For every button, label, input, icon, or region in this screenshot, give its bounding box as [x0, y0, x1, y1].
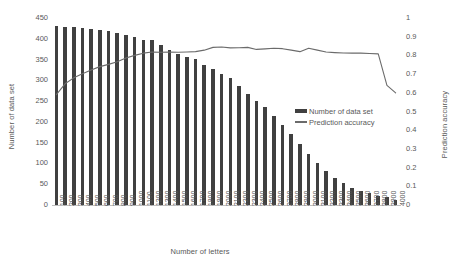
legend-item-number-of-data-set: Number of data set: [295, 106, 374, 116]
y-axis-right-title: Prediction accuracy: [440, 85, 449, 165]
x-axis-tick: 900: [129, 195, 136, 206]
y-axis-right-tick: 0: [406, 201, 432, 209]
y-axis-left-tick: 0: [22, 201, 48, 209]
y-axis-left-tick: 50: [22, 180, 48, 188]
legend-bar-swatch-icon: [295, 109, 307, 113]
x-axis-tick: 3700: [373, 191, 380, 206]
x-axis-tick: 1200: [155, 191, 162, 206]
x-axis-tick: 3000: [312, 191, 319, 206]
x-axis-tick: 3400: [346, 191, 353, 206]
x-axis-tick: 1700: [199, 191, 206, 206]
legend-line-swatch-icon: [295, 121, 307, 123]
x-axis-tick: 600: [103, 195, 110, 206]
y-axis-left-tick: 150: [22, 139, 48, 147]
y-axis-right-tick: 0.5: [406, 108, 432, 116]
x-axis-tick: 2900: [303, 191, 310, 206]
x-axis-tick: 1300: [164, 191, 171, 206]
x-axis-tick: 3800: [381, 191, 388, 206]
legend-label-number-of-data-set: Number of data set: [309, 107, 373, 116]
x-axis-tick: 400: [85, 195, 92, 206]
x-axis-tick: 3300: [338, 191, 345, 206]
x-axis-tick: 1000: [138, 191, 145, 206]
prediction-accuracy-line: [56, 47, 395, 95]
y-axis-right-tick: 0.2: [406, 164, 432, 172]
x-axis-tick: 2700: [286, 191, 293, 206]
x-axis-tick: 3100: [320, 191, 327, 206]
x-axis-tick: 1800: [207, 191, 214, 206]
legend-item-prediction-accuracy: Prediction accuracy: [295, 117, 374, 127]
x-axis-tick: 3600: [364, 191, 371, 206]
x-axis-tick: 1400: [172, 191, 179, 206]
y-axis-left-tick: 400: [22, 35, 48, 43]
y-axis-right-tick: 0.3: [406, 145, 432, 153]
y-axis-left-tick: 450: [22, 14, 48, 22]
y-axis-left-tick: 200: [22, 118, 48, 126]
x-axis-tick: 1100: [146, 191, 153, 206]
y-axis-left-title: Number of data set: [7, 77, 16, 157]
x-axis-tick: 3200: [329, 191, 336, 206]
x-axis-ticks: 1002003004005006007008009001000110012001…: [52, 206, 400, 246]
x-axis-tick: 3900: [390, 191, 397, 206]
y-axis-right-tick: 0.4: [406, 126, 432, 134]
y-axis-right-tick: 0.6: [406, 89, 432, 97]
y-axis-right-tick: 1: [406, 14, 432, 22]
y-axis-left-tick: 350: [22, 56, 48, 64]
y-axis-left-tick: 250: [22, 97, 48, 105]
x-axis-tick: 2100: [233, 191, 240, 206]
y-axis-right-tick: 0.8: [406, 51, 432, 59]
x-axis-tick: 1900: [216, 191, 223, 206]
y-axis-left-tick: 100: [22, 159, 48, 167]
x-axis-tick: 300: [77, 195, 84, 206]
x-axis-tick: 1500: [181, 191, 188, 206]
y-axis-left-tick: 300: [22, 76, 48, 84]
legend-label-prediction-accuracy: Prediction accuracy: [309, 118, 374, 127]
x-axis-tick: 100: [59, 195, 66, 206]
x-axis-tick: 2300: [251, 191, 258, 206]
x-axis-tick: 1600: [190, 191, 197, 206]
x-axis-tick: 2400: [259, 191, 266, 206]
x-axis-tick: 4000: [399, 191, 406, 206]
y-axis-right-tick: 0.7: [406, 70, 432, 78]
y-axis-right-tick: 0.1: [406, 182, 432, 190]
x-axis-tick: 3500: [355, 191, 362, 206]
x-axis-tick: 200: [68, 195, 75, 206]
x-axis-tick: 2200: [242, 191, 249, 206]
x-axis-tick: 800: [120, 195, 127, 206]
x-axis-title: Number of letters: [0, 247, 400, 256]
x-axis-tick: 2500: [268, 191, 275, 206]
y-axis-right-tick: 0.9: [406, 33, 432, 41]
x-axis-tick: 2800: [294, 191, 301, 206]
chart-container: Number of data set Prediction accuracy N…: [0, 0, 458, 261]
chart-legend: Number of data set Prediction accuracy: [295, 106, 374, 128]
x-axis-tick: 2600: [277, 191, 284, 206]
x-axis-tick: 2000: [225, 191, 232, 206]
x-axis-tick: 700: [112, 195, 119, 206]
x-axis-tick: 500: [94, 195, 101, 206]
